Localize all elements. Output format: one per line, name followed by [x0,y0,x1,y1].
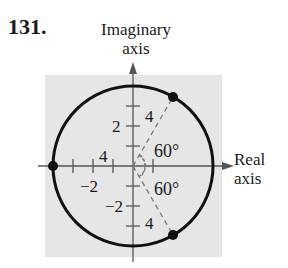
imaginary-axis-arrow-icon [129,62,137,74]
complex-plane-diagram: 2 −2 −2 4 4 4 60° 60° [0,0,288,268]
angle-label-top: 60° [154,141,179,161]
point-300-deg [168,230,178,240]
radius-label-bottom: 4 [145,214,154,233]
angle-label-bottom: 60° [154,179,179,199]
radius-label-left: 4 [99,147,108,166]
x-tick-label-neg2: −2 [80,177,98,196]
radius-label-top: 4 [145,107,154,126]
y-tick-label-neg2: −2 [105,197,123,216]
real-axis-arrow-icon [222,162,234,170]
y-tick-label-2: 2 [112,117,121,136]
point-60-deg [168,92,178,102]
point-180-deg [48,161,58,171]
